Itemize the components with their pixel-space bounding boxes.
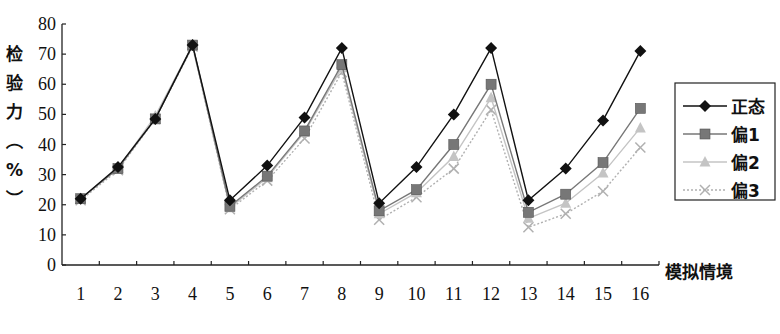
y-axis-label-char: ︵ bbox=[6, 131, 23, 151]
x-marker-icon bbox=[635, 143, 645, 153]
y-tick-label: 70 bbox=[38, 44, 56, 64]
x-tick-label: 10 bbox=[407, 284, 425, 304]
triangle-marker-icon bbox=[448, 151, 459, 162]
x-tick-label: 8 bbox=[337, 284, 346, 304]
y-tick-label: 40 bbox=[38, 135, 56, 155]
diamond-marker-icon bbox=[485, 42, 497, 54]
y-tick-label: 10 bbox=[38, 225, 56, 245]
y-tick-label: 60 bbox=[38, 74, 56, 94]
x-tick-label: 6 bbox=[263, 284, 272, 304]
x-tick-label: 3 bbox=[151, 284, 160, 304]
square-marker-icon bbox=[700, 129, 710, 139]
square-marker-icon bbox=[262, 171, 272, 181]
x-tick-label: 15 bbox=[594, 284, 612, 304]
legend: 正态偏1偏2偏3 bbox=[675, 83, 775, 201]
diamond-marker-icon bbox=[634, 45, 646, 57]
legend-label: 偏2 bbox=[731, 153, 760, 173]
x-tick-label: 4 bbox=[188, 284, 197, 304]
y-tick-label: 30 bbox=[38, 165, 56, 185]
diamond-marker-icon bbox=[448, 108, 460, 120]
y-tick-label: 20 bbox=[38, 195, 56, 215]
legend-label: 偏1 bbox=[731, 125, 760, 145]
triangle-marker-icon bbox=[635, 122, 646, 132]
square-marker-icon bbox=[411, 185, 421, 195]
x-tick-label: 16 bbox=[631, 284, 649, 304]
x-marker-icon bbox=[449, 164, 459, 174]
x-tick-label: 2 bbox=[113, 284, 122, 304]
x-tick-label: 12 bbox=[482, 284, 500, 304]
square-marker-icon bbox=[561, 189, 571, 199]
square-marker-icon bbox=[635, 103, 645, 113]
square-marker-icon bbox=[300, 126, 310, 136]
y-axis-label-char: 力 bbox=[6, 102, 23, 122]
square-marker-icon bbox=[598, 158, 608, 168]
x-tick-label: 1 bbox=[76, 284, 85, 304]
series-偏2 bbox=[75, 39, 646, 223]
x-marker-icon bbox=[598, 186, 608, 196]
y-tick-label: 80 bbox=[38, 14, 56, 34]
x-tick-label: 14 bbox=[557, 284, 575, 304]
y-axis-label: 检验力︵%︶ bbox=[6, 44, 24, 209]
x-axis: 12345678910111213141516 bbox=[62, 261, 659, 304]
line-chart: 检验力︵%︶ 01020304050607080 123456789101112… bbox=[0, 0, 780, 334]
series-偏1 bbox=[76, 40, 646, 217]
x-tick-label: 7 bbox=[300, 284, 309, 304]
legend-label: 偏3 bbox=[731, 181, 760, 201]
square-marker-icon bbox=[523, 207, 533, 217]
legend-label: 正态 bbox=[731, 97, 765, 117]
square-marker-icon bbox=[486, 79, 496, 89]
y-axis-label-char: ︶ bbox=[6, 189, 23, 209]
diamond-marker-icon bbox=[597, 114, 609, 126]
x-marker-icon bbox=[561, 209, 571, 219]
y-axis-label-char: % bbox=[6, 160, 23, 180]
y-tick-label: 0 bbox=[47, 255, 56, 275]
y-tick-label: 50 bbox=[38, 104, 56, 124]
y-axis-label-char: 检 bbox=[6, 44, 23, 64]
x-marker-icon bbox=[523, 222, 533, 232]
x-tick-label: 9 bbox=[375, 284, 384, 304]
x-tick-label: 13 bbox=[519, 284, 537, 304]
y-axis: 01020304050607080 bbox=[38, 14, 66, 275]
x-tick-label: 5 bbox=[225, 284, 234, 304]
y-axis-label-char: 验 bbox=[6, 73, 24, 93]
series-lines bbox=[75, 39, 647, 232]
square-marker-icon bbox=[449, 140, 459, 150]
x-tick-label: 11 bbox=[445, 284, 462, 304]
diamond-marker-icon bbox=[299, 111, 311, 123]
x-axis-label: 模拟情境 bbox=[665, 262, 733, 282]
diamond-marker-icon bbox=[336, 42, 348, 54]
